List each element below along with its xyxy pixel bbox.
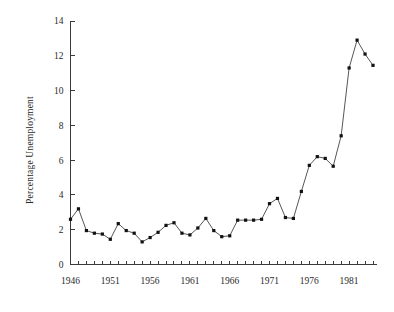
y-axis-title: Percentage Unemployment — [25, 96, 35, 204]
data-point-marker — [117, 222, 120, 225]
data-point-marker — [109, 238, 112, 241]
series-polyline — [71, 40, 374, 242]
data-point-marker — [300, 190, 303, 193]
y-tick-label: 2 — [59, 225, 64, 235]
data-point-marker — [292, 217, 295, 220]
data-point-marker — [172, 221, 175, 224]
chart-figure: 02468101214 1946195119561961196619711976… — [0, 0, 394, 312]
data-point-marker — [371, 64, 374, 67]
data-point-marker — [236, 219, 239, 222]
y-axis: 02468101214 — [54, 16, 75, 270]
data-point-marker — [188, 233, 191, 236]
data-point-marker — [276, 197, 279, 200]
data-point-marker — [228, 234, 231, 237]
data-point-marker — [180, 232, 183, 235]
data-point-marker — [85, 229, 88, 232]
data-point-marker — [324, 157, 327, 160]
data-point-marker — [348, 66, 351, 69]
data-point-marker — [133, 232, 136, 235]
data-point-marker — [220, 235, 223, 238]
x-tick-label: 1976 — [300, 276, 319, 286]
data-point-marker — [204, 217, 207, 220]
y-tick-label: 4 — [59, 190, 64, 200]
data-point-marker — [363, 52, 366, 55]
y-tick-label: 10 — [54, 86, 64, 96]
chart-plot-area: 02468101214 1946195119561961196619711976… — [0, 0, 394, 312]
data-point-marker — [77, 207, 80, 210]
y-tick-label: 6 — [59, 156, 64, 166]
x-tick-label: 1981 — [340, 276, 359, 286]
x-tick-label: 1961 — [180, 276, 199, 286]
data-point-marker — [244, 219, 247, 222]
x-tick-label: 1956 — [141, 276, 160, 286]
data-point-marker — [252, 219, 255, 222]
y-tick-label: 0 — [59, 260, 64, 270]
data-point-marker — [340, 134, 343, 137]
data-series-unemployment — [69, 39, 375, 244]
data-point-marker — [164, 224, 167, 227]
data-point-marker — [268, 202, 271, 205]
x-tick-label: 1971 — [260, 276, 279, 286]
x-axis: 19461951195619611966197119761981 — [61, 261, 377, 285]
x-tick-label: 1951 — [101, 276, 120, 286]
data-point-marker — [212, 229, 215, 232]
data-point-marker — [125, 229, 128, 232]
data-point-marker — [93, 232, 96, 235]
data-point-marker — [141, 240, 144, 243]
data-point-marker — [260, 218, 263, 221]
data-point-marker — [69, 218, 72, 221]
data-point-marker — [332, 165, 335, 168]
data-point-marker — [196, 226, 199, 229]
data-point-marker — [156, 231, 159, 234]
data-point-marker — [308, 164, 311, 167]
data-point-marker — [284, 216, 287, 219]
data-point-marker — [149, 236, 152, 239]
y-tick-label: 14 — [54, 16, 64, 26]
y-axis-title-text: Percentage Unemployment — [25, 96, 35, 204]
x-tick-label: 1966 — [220, 276, 239, 286]
data-point-marker — [101, 232, 104, 235]
y-tick-label: 12 — [54, 51, 64, 61]
data-point-marker — [355, 39, 358, 42]
data-point-marker — [316, 155, 319, 158]
y-tick-label: 8 — [59, 121, 64, 131]
x-tick-label: 1946 — [61, 276, 80, 286]
